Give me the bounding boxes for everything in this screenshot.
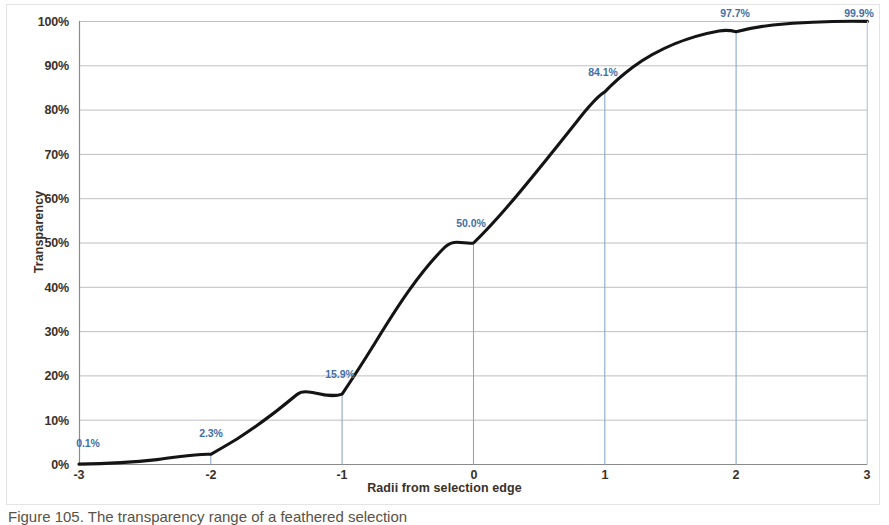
x-tick-1: 1 <box>585 468 625 482</box>
data-label-4: 84.1% <box>573 66 633 78</box>
y-tick-30: 30% <box>15 325 69 339</box>
x-tick-neg2: -2 <box>191 468 231 482</box>
data-label-2: 15.9% <box>310 368 370 380</box>
y-tick-70: 70% <box>15 148 69 162</box>
y-tick-20: 20% <box>15 369 69 383</box>
x-tick-neg1: -1 <box>322 468 362 482</box>
data-label-1: 2.3% <box>181 427 241 439</box>
data-label-0: 0.1% <box>58 437 118 449</box>
x-axis-title: Radii from selection edge <box>0 481 889 495</box>
chart-plot-area <box>7 5 881 506</box>
y-tick-80: 80% <box>15 103 69 117</box>
figure-caption: Figure 105. The transparency range of a … <box>8 508 407 525</box>
data-label-6: 99.9% <box>829 7 889 19</box>
x-tick-2: 2 <box>716 468 756 482</box>
y-tick-100: 100% <box>15 15 69 29</box>
y-tick-90: 90% <box>15 59 69 73</box>
y-tick-10: 10% <box>15 414 69 428</box>
data-label-3: 50.0% <box>441 217 501 229</box>
x-tick-0: 0 <box>454 468 494 482</box>
data-label-5: 97.7% <box>705 7 765 19</box>
y-axis-title: Transparency <box>32 172 46 292</box>
x-tick-neg3: -3 <box>59 468 99 482</box>
x-tick-3: 3 <box>847 468 887 482</box>
figure-frame: 100% 90% 80% 70% 60% 50% 40% 30% 20% 10%… <box>6 4 880 505</box>
